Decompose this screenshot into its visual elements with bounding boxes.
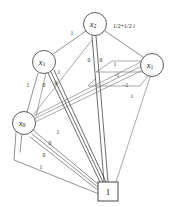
weight-label-group: 1/2+1/2i bbox=[113, 23, 135, 29]
edge-label-x0-b: 0 bbox=[49, 140, 52, 146]
decision-diagram: x2 x1 x1 x0 bbox=[0, 0, 170, 207]
edge-label-x1left-a: 1 bbox=[58, 69, 61, 75]
edge-x2-to-x1right[interactable] bbox=[105, 31, 143, 57]
edge-label-x2-down-b: 0 bbox=[100, 57, 103, 63]
terminal-label: 1 bbox=[106, 187, 111, 197]
edge-label-x0-a: 1 bbox=[57, 129, 60, 135]
edge-label-x0-c: 0 bbox=[43, 152, 46, 158]
edge-label-x1left-d: 0 bbox=[55, 80, 58, 86]
edge-x0-bracket-left[interactable] bbox=[14, 132, 99, 194]
node-terminal[interactable]: 1 bbox=[98, 182, 118, 201]
edge-label-x1right-in: 1 bbox=[114, 61, 117, 67]
edge-x1left-to-x0[interactable] bbox=[27, 73, 38, 112]
edge-x2-to-x1left[interactable] bbox=[53, 31, 86, 54]
node-x2[interactable]: x2 bbox=[84, 13, 107, 36]
node-x1-left[interactable]: x1 bbox=[33, 51, 56, 74]
node-x1-right[interactable]: x1 bbox=[141, 54, 164, 77]
edge-label-x2-x1left: 1 bbox=[71, 30, 74, 36]
edge-label-right-neg-a: -1 bbox=[115, 72, 120, 78]
edge-x1left-to-terminal-b[interactable] bbox=[51, 72, 103, 182]
weight-label-complex: 1/2+1/2i bbox=[113, 23, 135, 29]
edge-x0-to-terminal-b[interactable] bbox=[32, 134, 99, 188]
edge-label-x0-d: 1 bbox=[40, 164, 43, 170]
node-group: x2 x1 x1 x0 bbox=[13, 13, 164, 202]
edge-x1right-bracket-a[interactable] bbox=[96, 61, 143, 72]
diagram-canvas: x2 x1 x1 x0 bbox=[0, 0, 170, 207]
edge-label-right-one: 1 bbox=[131, 93, 134, 99]
edge-x1right-to-x0-b[interactable] bbox=[34, 66, 142, 119]
edge-x1left-to-terminal-c[interactable] bbox=[54, 70, 106, 182]
edge-label-x2-down-a: 0 bbox=[88, 57, 91, 63]
edge-label-right-neg-b: -1 bbox=[124, 82, 129, 88]
edge-label-x1left-b: 1 bbox=[27, 82, 30, 88]
edge-x1left-to-terminal-a[interactable] bbox=[48, 73, 100, 182]
edge-label-x1left-c: 0 bbox=[43, 82, 46, 88]
node-x0[interactable]: x0 bbox=[13, 112, 36, 135]
edge-x1right-to-x0-c[interactable] bbox=[35, 70, 143, 122]
edge-x0-bracket-stub[interactable] bbox=[20, 134, 22, 152]
